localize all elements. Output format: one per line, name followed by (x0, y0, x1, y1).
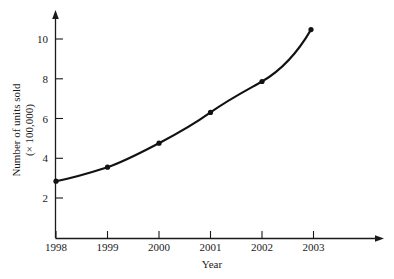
data-point-2003 (308, 27, 313, 32)
y-axis-title-line1: Number of units sold (10, 83, 22, 177)
data-point-1998 (53, 179, 58, 184)
x-axis-title: Year (202, 258, 223, 270)
x-tick-label-2003: 2003 (303, 241, 326, 253)
y-axis-title-line2: (× 100,000) (23, 104, 36, 156)
data-point-1999 (105, 165, 110, 170)
x-tick-label-2000: 2000 (148, 241, 171, 253)
data-point-2000 (156, 141, 161, 146)
y-tick-label-2: 2 (43, 192, 49, 204)
y-tick-label-8: 8 (43, 73, 49, 85)
y-tick-label-10: 10 (37, 33, 49, 45)
chart-background (0, 0, 394, 279)
y-tick-label-4: 4 (43, 152, 49, 164)
x-tick-label-2002: 2002 (251, 241, 273, 253)
x-tick-label-1999: 1999 (97, 241, 120, 253)
chart-figure: 10 8 6 4 2 1998 1999 2000 2001 2002 2003 (0, 0, 394, 279)
x-tick-label-1998: 1998 (45, 241, 68, 253)
data-point-2001 (208, 110, 213, 115)
y-tick-label-6: 6 (43, 113, 49, 125)
x-tick-label-2001: 2001 (200, 241, 222, 253)
data-point-2002 (259, 79, 264, 84)
line-chart: 10 8 6 4 2 1998 1999 2000 2001 2002 2003 (0, 0, 394, 279)
